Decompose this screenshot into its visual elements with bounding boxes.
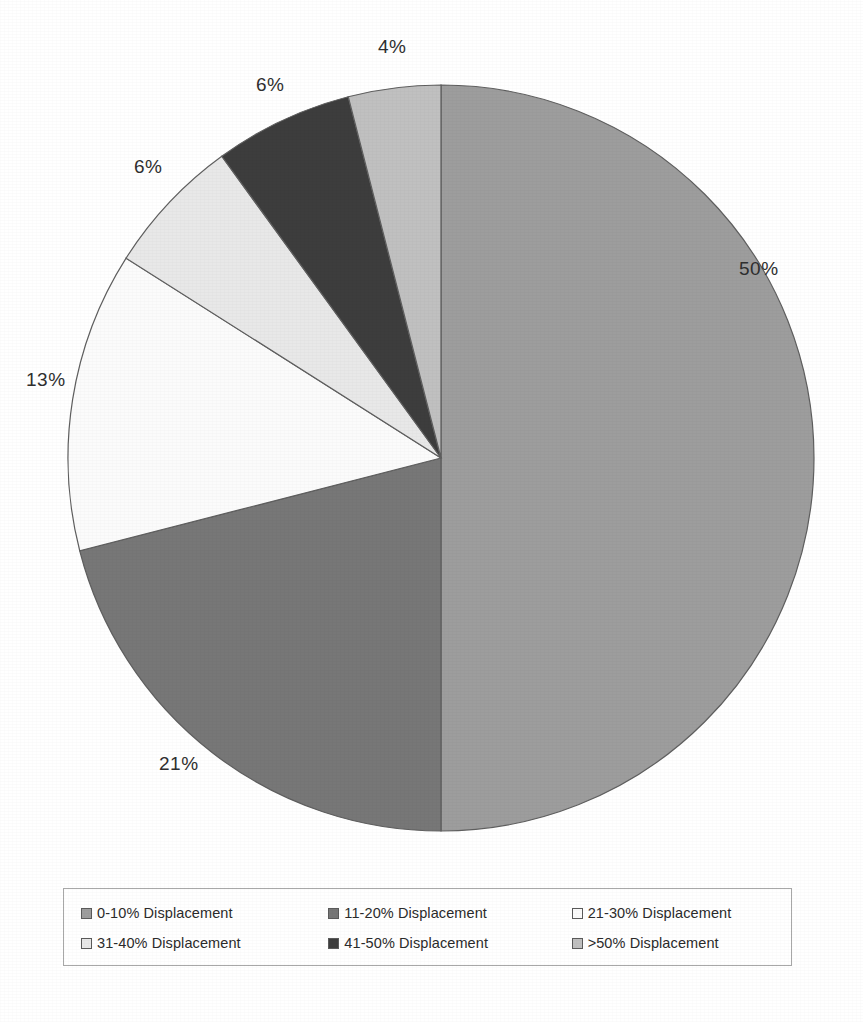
pie-slices — [68, 85, 814, 831]
legend-label: 31-40% Displacement — [97, 935, 241, 951]
legend-item-41-50[interactable]: 41-50% Displacement — [318, 935, 567, 951]
legend-label: 41-50% Displacement — [344, 935, 488, 951]
pie-slice[interactable] — [441, 85, 814, 831]
legend-swatch-icon — [81, 938, 92, 949]
legend-label: 11-20% Displacement — [344, 905, 487, 921]
legend-row: 31-40% Displacement 41-50% Displacement … — [64, 928, 791, 958]
legend-item-31-40[interactable]: 31-40% Displacement — [64, 935, 318, 951]
legend-item-over-50[interactable]: >50% Displacement — [568, 935, 791, 951]
legend-swatch-icon — [572, 908, 583, 919]
slice-label-11-20: 21% — [159, 753, 199, 775]
slice-label-over-50: 4% — [378, 36, 406, 58]
legend-label: 21-30% Displacement — [588, 905, 732, 921]
legend-item-11-20[interactable]: 11-20% Displacement — [318, 905, 567, 921]
slice-label-31-40: 6% — [134, 156, 162, 178]
slice-label-21-30: 13% — [26, 369, 66, 391]
pie-chart-svg — [0, 0, 863, 860]
pie-chart: 50% 21% 13% 6% 6% 4% — [0, 0, 863, 860]
legend-swatch-icon — [328, 938, 339, 949]
legend-item-0-10[interactable]: 0-10% Displacement — [64, 905, 318, 921]
slice-label-0-10: 50% — [739, 258, 779, 280]
legend-swatch-icon — [572, 938, 583, 949]
legend-item-21-30[interactable]: 21-30% Displacement — [568, 905, 791, 921]
legend-label: >50% Displacement — [588, 935, 719, 951]
chart-legend: 0-10% Displacement 11-20% Displacement 2… — [63, 888, 792, 966]
legend-swatch-icon — [81, 908, 92, 919]
legend-swatch-icon — [328, 908, 339, 919]
legend-label: 0-10% Displacement — [97, 905, 233, 921]
legend-row: 0-10% Displacement 11-20% Displacement 2… — [64, 898, 791, 928]
slice-label-41-50: 6% — [256, 74, 284, 96]
